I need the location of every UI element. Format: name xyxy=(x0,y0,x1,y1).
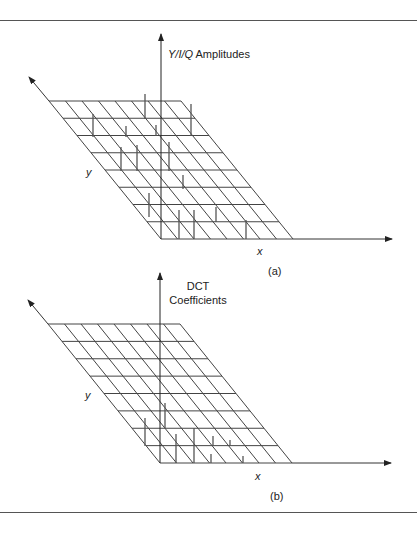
panel-a-ycc-amplitudes xyxy=(29,34,392,239)
panel-b-z-axis-label: DCT Coefficients xyxy=(168,281,228,306)
panel-a-x-axis-label: x xyxy=(257,246,263,257)
panel-b-z-axis-label-line2: Coefficients xyxy=(168,295,228,306)
panel-a-caption: (a) xyxy=(268,266,281,277)
panel-a-y-axis-label: y xyxy=(86,167,92,178)
panel-b-y-axis-label: y xyxy=(85,390,91,401)
panel-a-z-axis-label-italic: Y/I/Q xyxy=(168,48,193,60)
panel-a-z-axis-label-rest: Amplitudes xyxy=(193,48,250,60)
y-axis xyxy=(29,77,49,101)
panel-b-x-axis-label: x xyxy=(255,471,261,482)
panel-b-z-axis-label-line1: DCT xyxy=(168,281,228,292)
y-axis xyxy=(28,300,48,324)
panel-b-caption: (b) xyxy=(270,491,283,502)
panel-a-z-axis-label: Y/I/Q Amplitudes xyxy=(168,49,250,60)
dct-figure xyxy=(0,0,417,539)
